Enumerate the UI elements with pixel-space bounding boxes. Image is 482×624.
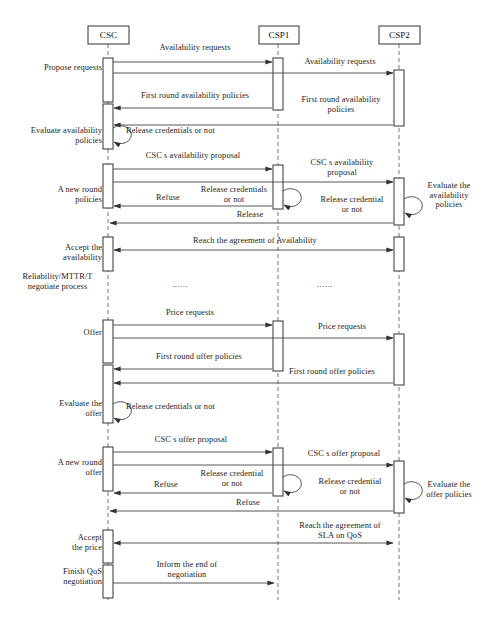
side-label-propose-requests: Propose requests <box>8 63 102 73</box>
activation-csc-newoffer <box>103 447 113 491</box>
side-label-accept-the-price: Accept the price <box>8 533 102 552</box>
message-label-release-credential-self-3: Release credential or not <box>308 195 396 214</box>
activation-csc-evaluate <box>103 104 113 149</box>
message-label-inform-end-negotiation: Inform the end of negotiation <box>122 560 252 579</box>
lifeline-head-group <box>88 26 420 44</box>
message-label-csc-avail-proposal-2: CSC s availability proposal <box>292 158 392 177</box>
activation-csp2-avail <box>394 70 404 126</box>
message-label-release-credentials-self-4: Release credentials or not <box>126 402 272 412</box>
activation-csc-propose <box>103 58 113 102</box>
activation-csc-newround <box>103 164 113 208</box>
message-label-release-credentials-self-1: Release credentials or not <box>126 126 266 136</box>
message-label-refuse-2: Refuse <box>136 480 196 490</box>
activation-csp1-price <box>273 321 283 371</box>
side-label-evaluate-the-offer: Evaluate the offer <box>8 399 102 418</box>
message-label-release-credentials-self-2: Release credentials or not <box>190 185 278 204</box>
message-label-first-round-avail-pol-1: First round availability policies <box>120 91 270 101</box>
lifeline-head-label-csp2: CSP2 <box>379 30 420 40</box>
side-label-accept-the-availability: Accept the availability <box>8 243 102 262</box>
message-label-release-credential-self-5: Release credential or not <box>188 469 276 488</box>
side-label-a-new-round-offer: A new round offer <box>8 458 102 477</box>
side-label-evaluate-offer-policies-right: Evaluate the offer policies <box>418 480 480 499</box>
message-label-price-requests-1: Price requests <box>130 308 250 318</box>
side-label-reliability-mttr-negotiate: Reliability/MTTR/T negotiate process <box>10 272 105 291</box>
activation-csp2-price <box>394 334 404 385</box>
message-label-price-requests-2: Price requests <box>294 322 390 332</box>
lifeline-head-label-csp1: CSP1 <box>259 30 299 40</box>
message-label-refuse-3: Refuse <box>218 498 278 508</box>
message-label-reach-agreement-sla: Reach the agreement of SLA on QoS <box>278 521 402 540</box>
arrow-release-credentials-self-2[interactable] <box>283 189 301 207</box>
message-label-availability-requests-2: Availability requests <box>288 57 392 67</box>
message-label-refuse-1: Refuse <box>138 193 198 203</box>
activation-csc-evaloffer <box>103 365 113 423</box>
activation-csp1-avail <box>273 58 283 110</box>
message-label-csc-avail-proposal-1: CSC s availability proposal <box>118 151 268 161</box>
activation-csc-accept <box>103 237 113 271</box>
message-label-csc-offer-proposal-1: CSC s offer proposal <box>126 435 256 445</box>
message-label-availability-requests-1: Availability requests <box>120 43 270 53</box>
side-label-offer: Offer <box>8 328 102 338</box>
message-label-reach-agreement-avail: Reach the agreement of Availability <box>150 236 360 246</box>
ellipsis-left: ...... <box>160 280 200 290</box>
activation-csp2-offerprop <box>394 461 404 513</box>
side-label-a-new-round-policies: A new round policies <box>8 185 102 204</box>
side-label-evaluate-availability-policies-right: Evaluate the availability policies <box>418 181 480 210</box>
activation-csc-acceptprice <box>103 530 113 563</box>
message-label-release-credential-self-6: Release credential or not <box>306 477 394 496</box>
lifeline-head-label-csc: CSC <box>88 30 129 40</box>
arrow-release-credential-self-5[interactable] <box>283 475 301 493</box>
activation-csp2-agree <box>394 237 404 271</box>
message-label-release-1: Release <box>220 210 280 220</box>
message-label-first-round-avail-pol-2: First round availability policies <box>290 95 392 114</box>
side-label-evaluate-availability-policies: Evaluate availability policies <box>2 126 102 145</box>
message-label-first-round-offer-pol-2: First round offer policies <box>272 367 392 377</box>
ellipsis-right: ...... <box>305 280 345 290</box>
message-label-csc-offer-proposal-2: CSC s offer proposal <box>294 449 394 459</box>
side-label-finish-qos-negotiation: Finish QoS negotiation <box>8 567 102 586</box>
activation-csc-finish <box>103 565 113 598</box>
activation-csc-offer <box>103 320 113 363</box>
message-label-first-round-offer-pol-1: First round offer policies <box>124 352 274 362</box>
